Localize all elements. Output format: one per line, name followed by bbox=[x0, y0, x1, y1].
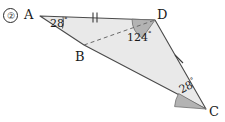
angle-measure-a: 28° bbox=[50, 17, 68, 29]
vertex-label-c: C bbox=[209, 105, 219, 118]
geometry-figure: ② A D C B 28° 124° 28° bbox=[0, 0, 225, 122]
geometry-canvas bbox=[0, 0, 225, 122]
angle-measure-d: 124° bbox=[127, 31, 152, 43]
vertex-label-d: D bbox=[157, 8, 167, 21]
vertex-label-a: A bbox=[24, 8, 33, 21]
item-number-badge: ② bbox=[3, 8, 18, 23]
angle-a-number: 28 bbox=[50, 17, 64, 30]
degree-symbol-a: ° bbox=[64, 16, 68, 24]
vertex-label-b: B bbox=[75, 50, 85, 63]
angle-d-number: 124 bbox=[127, 31, 148, 44]
degree-symbol-d: ° bbox=[148, 30, 152, 38]
